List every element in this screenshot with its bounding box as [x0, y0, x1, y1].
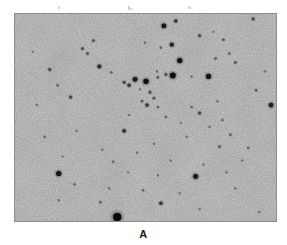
star-point: [208, 126, 210, 128]
star-point: [69, 96, 72, 99]
star-point: [81, 47, 84, 50]
star-point: [122, 129, 126, 133]
star-point: [75, 130, 77, 132]
star-point: [198, 111, 201, 114]
astronomical-plate-frame: [14, 13, 277, 222]
star-point: [225, 171, 227, 173]
star-point: [190, 106, 192, 108]
star-point: [92, 39, 95, 42]
star-point: [48, 68, 51, 71]
star-point: [144, 42, 146, 44]
star-point: [148, 91, 151, 94]
star-point: [32, 51, 34, 53]
star-point: [36, 104, 38, 106]
star-point: [269, 103, 274, 108]
star-point: [170, 159, 172, 161]
star-point: [247, 147, 249, 149]
star-point: [123, 81, 126, 84]
star-point: [229, 134, 232, 137]
star-point: [157, 174, 159, 176]
star-point: [99, 201, 102, 204]
star-point: [202, 163, 204, 165]
star-point: [136, 152, 138, 154]
star-point: [73, 183, 75, 185]
star-point: [160, 46, 162, 48]
star-point: [101, 149, 103, 151]
star-point: [128, 114, 130, 116]
star-point: [86, 52, 89, 55]
star-point: [113, 213, 121, 221]
star-point: [170, 73, 176, 79]
star-point: [159, 201, 163, 205]
star-point: [145, 103, 149, 107]
sky-field: [15, 14, 276, 221]
star-point: [133, 77, 138, 82]
star-point: [108, 187, 110, 189]
star-point: [161, 24, 166, 29]
star-field-points: [15, 14, 276, 221]
star-point: [198, 208, 200, 210]
page-text-bleed: [0, 0, 287, 8]
star-point: [157, 76, 160, 79]
star-point: [127, 84, 131, 88]
star-point: [56, 84, 58, 86]
star-point: [112, 160, 114, 162]
star-point: [198, 34, 201, 37]
star-point: [142, 189, 144, 191]
star-point: [255, 89, 258, 92]
star-point: [258, 211, 260, 213]
star-point: [97, 65, 101, 69]
star-point: [212, 31, 214, 33]
star-point: [127, 171, 129, 173]
star-point: [191, 75, 193, 77]
star-point: [228, 52, 230, 54]
star-point: [222, 38, 225, 41]
star-point: [174, 19, 177, 22]
star-point: [62, 156, 64, 158]
star-point: [241, 159, 243, 161]
star-point: [214, 57, 217, 60]
star-point: [141, 100, 144, 103]
star-point: [193, 174, 198, 179]
star-point: [44, 136, 46, 138]
star-point: [157, 106, 159, 108]
star-point: [139, 88, 141, 90]
star-point: [180, 122, 182, 124]
star-point: [170, 43, 174, 47]
star-point: [153, 97, 156, 100]
star-point: [156, 70, 158, 72]
star-point: [56, 171, 61, 176]
star-point: [165, 116, 167, 118]
star-point: [110, 71, 112, 73]
star-point: [221, 119, 223, 121]
star-point: [186, 136, 188, 138]
star-point: [264, 70, 266, 72]
stars-group: [31, 16, 276, 221]
star-point: [218, 145, 221, 148]
star-point: [206, 74, 211, 79]
figure-caption-label: A: [0, 228, 287, 241]
star-point: [58, 199, 60, 201]
star-point: [143, 79, 148, 84]
star-point: [234, 61, 237, 64]
star-point: [179, 192, 181, 194]
star-point: [216, 100, 218, 102]
star-point: [252, 17, 255, 20]
star-point: [153, 143, 155, 145]
star-point: [177, 58, 182, 63]
figure-panel: A: [0, 0, 287, 245]
star-point: [234, 187, 236, 189]
